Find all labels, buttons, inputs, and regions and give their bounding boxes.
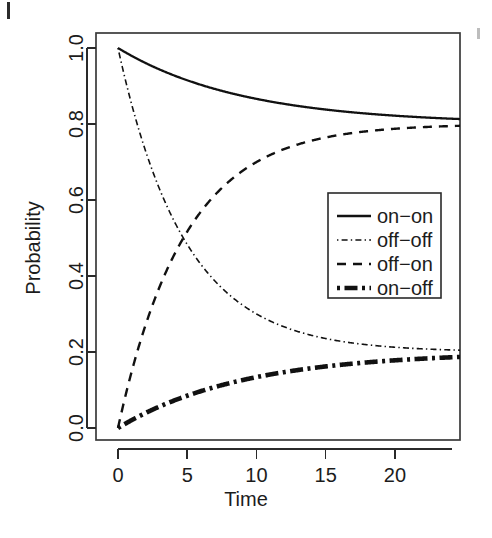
x-tick-label: 5 xyxy=(182,464,193,486)
page-edge-mark-left-icon xyxy=(7,2,10,19)
figure-panel: 0.00.20.40.60.81.0 05101520 Time Probabi… xyxy=(0,0,492,538)
y-axis-tick-labels: 0.00.20.40.60.81.0 xyxy=(65,34,87,442)
y-axis-ticks xyxy=(87,48,96,428)
x-tick-label: 15 xyxy=(315,464,337,486)
legend-label-3[interactable]: off−on xyxy=(377,253,433,275)
page-edge-mark-right-icon xyxy=(477,28,480,39)
curve-on-off xyxy=(118,357,460,428)
x-tick-label: 20 xyxy=(384,464,406,486)
x-tick-label: 0 xyxy=(112,464,123,486)
legend-label-2[interactable]: off−off xyxy=(377,229,433,251)
curve-on-on xyxy=(118,48,460,119)
y-tick-label: 1.0 xyxy=(65,34,87,62)
y-tick-label: 0.6 xyxy=(65,186,87,214)
legend-label-1[interactable]: on−on xyxy=(377,205,433,227)
probability-vs-time-chart: 0.00.20.40.60.81.0 05101520 Time Probabi… xyxy=(0,0,492,538)
y-tick-label: 0.2 xyxy=(65,338,87,366)
legend-label-4[interactable]: on−off xyxy=(377,277,433,299)
x-axis-tick-labels: 05101520 xyxy=(112,464,406,486)
y-tick-label: 0.0 xyxy=(65,414,87,442)
x-axis-title: Time xyxy=(224,488,268,510)
x-tick-label: 10 xyxy=(245,464,267,486)
y-tick-label: 0.4 xyxy=(65,262,87,290)
x-axis-ticks xyxy=(118,449,395,459)
y-axis-title: Probability xyxy=(22,201,44,294)
y-tick-label: 0.8 xyxy=(65,110,87,138)
chart-legend[interactable]: on−onoff−offoff−onon−off xyxy=(328,193,441,299)
